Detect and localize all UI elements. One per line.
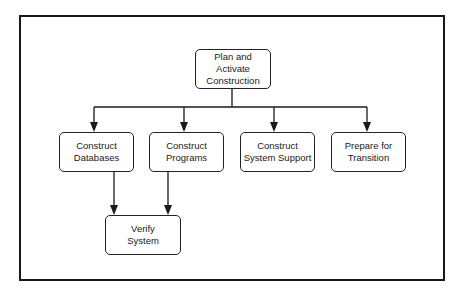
node-label-line1: Plan and Activate xyxy=(198,51,268,75)
node-label-line1: Construct xyxy=(244,140,312,152)
arrowhead-icon xyxy=(180,122,188,132)
node-label-line1: Construct xyxy=(74,140,119,152)
arrowhead-icon xyxy=(363,122,371,132)
node-label-line1: Verify xyxy=(127,223,159,235)
node-label-line2: Programs xyxy=(166,152,207,164)
node-label-line1: Prepare for xyxy=(345,140,393,152)
arrowhead-icon xyxy=(164,205,172,215)
node-verify-system: Verify System xyxy=(105,215,181,255)
node-label-line2: Construction xyxy=(198,75,268,87)
node-label-line2: Databases xyxy=(74,152,119,164)
node-label-line2: System xyxy=(127,235,159,247)
node-label-line2: Transition xyxy=(345,152,393,164)
node-label-line1: Construct xyxy=(166,140,207,152)
node-construct-system-support: Construct System Support xyxy=(240,132,315,172)
arrowhead-icon xyxy=(110,205,118,215)
node-prepare-for-transition: Prepare for Transition xyxy=(331,132,406,172)
node-construct-databases: Construct Databases xyxy=(59,132,134,172)
arrowhead-icon xyxy=(90,122,98,132)
node-label-line2: System Support xyxy=(244,152,312,164)
arrowhead-icon xyxy=(270,122,278,132)
node-plan-and-activate-construction: Plan and Activate Construction xyxy=(195,49,271,89)
node-construct-programs: Construct Programs xyxy=(149,132,224,172)
